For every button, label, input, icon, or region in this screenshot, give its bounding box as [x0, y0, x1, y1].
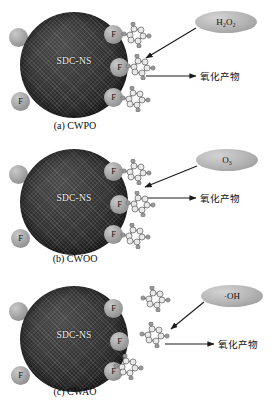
fluorine-site-left-bottom: F: [11, 92, 30, 111]
panel-caption: (b) CWOO: [0, 253, 150, 264]
panel-cwao: SDC-NS F F F F: [0, 274, 277, 411]
panel-cwpo: SDC-NS F F F F: [0, 0, 277, 137]
reagent-bubble-hydroxyl-radical: ·OH: [201, 285, 263, 307]
organic-molecule: [136, 322, 172, 348]
reagent-bubble-ozone: O₃: [196, 149, 258, 171]
organic-molecule: [137, 286, 173, 312]
organic-molecule: [117, 223, 153, 249]
panel-caption: (a) CWPO: [0, 120, 150, 131]
fluorine-site-right-top: F: [104, 299, 123, 318]
reagent-bubble-hydrogen-peroxide: H₂O₂: [195, 11, 257, 33]
product-label: 氧化产物: [200, 191, 240, 205]
organic-molecule: [118, 159, 154, 185]
organic-molecule: [122, 191, 158, 217]
reagent-label: O₃: [222, 155, 232, 165]
panel-cwoo: SDC-NS F F F F: [0, 137, 277, 274]
product-label: 氧化产物: [200, 69, 240, 83]
organic-molecule: [118, 22, 154, 48]
organic-molecule: [117, 86, 153, 112]
organic-molecule: [110, 354, 146, 380]
fluorine-site-left-bottom: F: [11, 366, 30, 385]
product-label: 氧化产物: [218, 337, 258, 351]
mechanism-figure: SDC-NS F F F F: [0, 0, 277, 412]
organic-molecule: [122, 54, 158, 80]
fluorine-site-left-bottom: F: [11, 229, 30, 248]
reagent-arrow: [171, 302, 204, 329]
panel-caption: (c) CWAO: [0, 386, 150, 397]
reagent-label: ·OH: [224, 291, 240, 301]
fluorine-site-right-middle: F: [110, 332, 129, 351]
reagent-label: H₂O₂: [216, 17, 235, 27]
